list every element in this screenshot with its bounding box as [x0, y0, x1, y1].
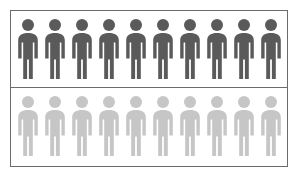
person-icon	[71, 18, 93, 80]
person-icon	[206, 18, 228, 80]
pictogram-unit	[260, 18, 282, 80]
pictogram-unit	[125, 18, 147, 80]
pictogram-unit	[98, 95, 120, 157]
person-icon	[125, 95, 147, 157]
person-icon	[260, 95, 282, 157]
pictogram-unit	[152, 95, 174, 157]
pictogram-unit	[152, 18, 174, 80]
person-icon	[44, 18, 66, 80]
person-icon	[233, 18, 255, 80]
pictogram-unit	[17, 18, 39, 80]
pictogram-unit	[98, 18, 120, 80]
person-icon	[98, 95, 120, 157]
pictogram-unit	[71, 95, 93, 157]
person-icon	[71, 95, 93, 157]
person-icon	[17, 95, 39, 157]
pictogram-chart	[0, 0, 300, 175]
pictogram-unit	[44, 95, 66, 157]
person-icon	[206, 95, 228, 157]
person-icon	[260, 18, 282, 80]
person-icon	[233, 95, 255, 157]
person-icon	[125, 18, 147, 80]
pictogram-unit	[233, 18, 255, 80]
pictogram-unit	[179, 18, 201, 80]
pictogram-row-1	[11, 11, 287, 87]
person-icon	[44, 95, 66, 157]
person-icon	[152, 18, 174, 80]
person-icon	[17, 18, 39, 80]
pictogram-unit	[260, 95, 282, 157]
person-icon	[152, 95, 174, 157]
pictogram-unit	[71, 18, 93, 80]
pictogram-unit	[44, 18, 66, 80]
pictogram-unit	[17, 95, 39, 157]
chart-frame	[10, 10, 288, 167]
pictogram-unit	[206, 18, 228, 80]
pictogram-unit	[125, 95, 147, 157]
person-icon	[98, 18, 120, 80]
pictogram-row-2	[11, 88, 287, 164]
pictogram-unit	[206, 95, 228, 157]
person-icon	[179, 18, 201, 80]
pictogram-unit	[179, 95, 201, 157]
pictogram-unit	[233, 95, 255, 157]
person-icon	[179, 95, 201, 157]
